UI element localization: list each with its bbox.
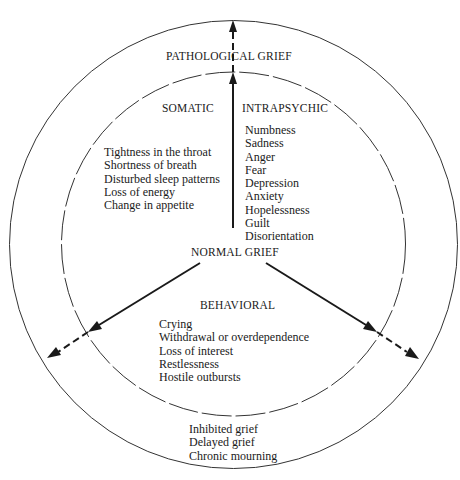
right-arrowhead-inner [363, 321, 377, 332]
list-item: Sadness [245, 137, 314, 150]
up-arrowhead-outer [229, 20, 237, 32]
left-arrow-solid [99, 263, 200, 325]
behavioral-list: Crying Withdrawal or overdependence Loss… [159, 318, 309, 384]
grief-diagram-graphics [0, 0, 460, 480]
list-item: Loss of interest [159, 345, 309, 358]
list-item: Restlessness [159, 358, 309, 371]
list-item: Guilt [245, 217, 314, 230]
up-arrowhead-inner [229, 72, 237, 84]
list-item: Crying [159, 318, 309, 331]
list-item: Hostile outbursts [159, 371, 309, 384]
intrapsychic-list: Numbness Sadness Anger Fear Depression A… [245, 124, 314, 244]
list-item: Depression [245, 177, 314, 190]
list-item: Numbness [245, 124, 314, 137]
list-item: Tightness in the throat [104, 146, 220, 159]
somatic-title: SOMATIC [162, 103, 214, 115]
behavioral-title: BEHAVIORAL [200, 300, 275, 312]
list-item: Anger [245, 151, 314, 164]
pathological-grief-label: PATHOLOGICAL GRIEF [166, 51, 292, 63]
list-item: Inhibited grief [189, 423, 277, 436]
list-item: Delayed grief [189, 436, 277, 449]
list-item: Withdrawal or overdependence [159, 331, 309, 344]
list-item: Fear [245, 164, 314, 177]
list-item: Chronic mourning [189, 450, 277, 463]
right-arrowhead-outer [405, 347, 419, 359]
list-item: Change in appetite [104, 199, 220, 212]
list-item: Loss of energy [104, 186, 220, 199]
normal-grief-label: NORMAL GRIEF [191, 247, 279, 259]
left-arrow-dashed [58, 332, 88, 352]
right-arrow-dashed [377, 332, 407, 352]
left-arrowhead-inner [88, 321, 102, 332]
somatic-list: Tightness in the throat Shortness of bre… [104, 146, 220, 212]
list-item: Shortness of breath [104, 159, 220, 172]
list-item: Disturbed sleep patterns [104, 173, 220, 186]
pathological-types-list: Inhibited grief Delayed grief Chronic mo… [189, 423, 277, 463]
left-arrowhead-outer [47, 347, 61, 358]
intrapsychic-title: INTRAPSYCHIC [242, 103, 328, 115]
right-arrow-solid [266, 263, 366, 325]
list-item: Anxiety [245, 190, 314, 203]
list-item: Hopelessness [245, 204, 314, 217]
list-item: Disorientation [245, 230, 314, 243]
